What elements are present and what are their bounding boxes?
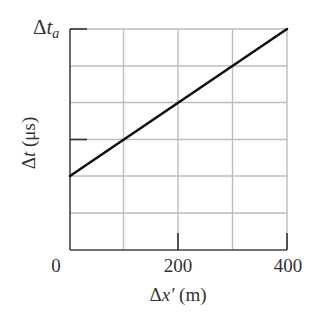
x-title-x: x′ bbox=[162, 284, 175, 305]
x-title-delta: Δ bbox=[150, 284, 162, 305]
y-title-units: (μs) bbox=[18, 117, 39, 152]
y-axis-title: Δt (μs) bbox=[19, 117, 38, 170]
y-title-delta: Δ bbox=[18, 157, 39, 169]
y-top-label: Δta bbox=[33, 17, 59, 41]
y-top-delta: Δ bbox=[33, 15, 47, 39]
x-title-units: (m) bbox=[174, 284, 206, 305]
x-tick-label-400: 400 bbox=[274, 256, 303, 275]
x-axis-title: Δx′ (m) bbox=[150, 285, 207, 304]
x-tick-label-200: 200 bbox=[164, 256, 193, 275]
y-top-subscript: a bbox=[52, 26, 59, 41]
chart: Δta Δt (μs) 0 200 400 Δx′ (m) bbox=[0, 0, 322, 314]
y-title-t: t bbox=[18, 152, 39, 157]
x-tick-label-0: 0 bbox=[51, 256, 61, 275]
grid bbox=[70, 29, 287, 250]
